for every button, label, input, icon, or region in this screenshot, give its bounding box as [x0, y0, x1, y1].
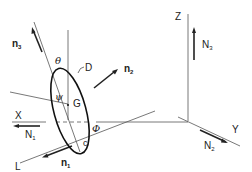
n3-capital-label: N3: [202, 39, 213, 51]
n1-capital-label: N1: [25, 129, 36, 141]
phi-label: Φ: [92, 123, 100, 134]
center-of-mass-point: [67, 104, 69, 106]
g-label: G: [73, 98, 81, 109]
diagram-canvas: n3 θ D n2 ψ G Φ c X N1 L n1 Z N3 Y N2: [0, 0, 252, 172]
psi-label: ψ: [55, 91, 63, 102]
y-label: Y: [232, 124, 239, 135]
c-label: c: [83, 138, 88, 148]
z-label: Z: [175, 11, 181, 22]
n1-capital-arrowhead-icon: [13, 124, 19, 128]
n3-capital-arrowhead-icon: [192, 27, 196, 33]
n3-label: n3: [12, 38, 22, 50]
n2-capital-label: N2: [204, 140, 215, 152]
n1-arrow: [46, 146, 72, 156]
n2-label: n2: [124, 63, 134, 75]
n1-label: n1: [61, 157, 71, 169]
n2-arrow: [94, 72, 114, 88]
d-label: D: [85, 62, 92, 73]
d-leader-line: [78, 67, 84, 73]
n3-axis: [34, 22, 80, 152]
x-label: X: [15, 110, 22, 121]
theta-label: θ: [55, 55, 61, 66]
l-label: L: [15, 161, 21, 172]
